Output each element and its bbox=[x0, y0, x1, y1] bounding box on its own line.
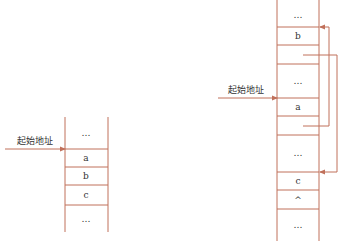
right-cell-3: … bbox=[294, 76, 303, 86]
pointer-b-to-c bbox=[303, 55, 337, 172]
right-cell-8: ^ bbox=[294, 195, 302, 205]
right-cell-9: … bbox=[294, 220, 303, 230]
right-cell-7: c bbox=[295, 176, 300, 186]
right-cell-4: a bbox=[295, 102, 301, 112]
right-start-label: 起始地址 bbox=[228, 84, 264, 95]
right-cell-1: b bbox=[295, 31, 301, 41]
left-cell-4: … bbox=[82, 214, 91, 224]
pointer-a-to-b bbox=[303, 27, 329, 126]
left-cell-3: c bbox=[83, 190, 88, 200]
right-cell-6: … bbox=[294, 148, 303, 158]
left-cell-0: … bbox=[82, 128, 91, 138]
right-cell-0: … bbox=[294, 10, 303, 20]
left-cell-1: a bbox=[83, 153, 89, 163]
linked-list-memory-diagram: 起始地址 … a b c … 起始地址 … b … a … c ^ … bbox=[0, 0, 342, 241]
left-cell-2: b bbox=[83, 171, 89, 181]
left-start-label: 起始地址 bbox=[17, 135, 53, 146]
